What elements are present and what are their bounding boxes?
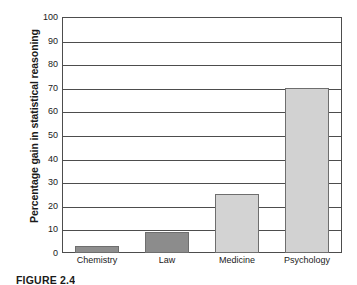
x-axis-tick-labels: ChemistryLawMedicinePsychology xyxy=(62,255,342,271)
y-tick-label-10: 10 xyxy=(32,224,58,234)
bars-group xyxy=(62,17,342,253)
x-tick-label-law: Law xyxy=(159,255,176,265)
y-tick-label-30: 30 xyxy=(32,177,58,187)
bar-fill xyxy=(215,194,259,253)
y-tick-label-80: 80 xyxy=(32,59,58,69)
bar-fill xyxy=(285,88,329,253)
bar-fill xyxy=(75,246,119,253)
bar-law xyxy=(145,232,189,253)
y-tick-label-100: 100 xyxy=(32,12,58,22)
x-tick-label-psychology: Psychology xyxy=(284,255,330,265)
figure-container: Percentage gain in statistical reasoning… xyxy=(0,0,357,285)
bar-fill xyxy=(145,232,189,253)
y-tick-label-20: 20 xyxy=(32,201,58,211)
y-tick-label-60: 60 xyxy=(32,106,58,116)
y-tick-label-0: 0 xyxy=(32,248,58,258)
y-tick-label-70: 70 xyxy=(32,83,58,93)
bar-chemistry xyxy=(75,246,119,253)
bar-medicine xyxy=(215,194,259,253)
x-tick-label-medicine: Medicine xyxy=(219,255,255,265)
y-tick-label-40: 40 xyxy=(32,154,58,164)
x-tick-label-chemistry: Chemistry xyxy=(77,255,118,265)
figure-caption: FIGURE 2.4 xyxy=(16,274,75,285)
y-tick-label-90: 90 xyxy=(32,36,58,46)
bar-psychology xyxy=(285,88,329,253)
y-tick-label-50: 50 xyxy=(32,130,58,140)
